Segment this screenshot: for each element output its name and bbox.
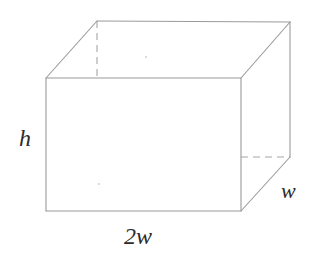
paper-speck [145,56,147,58]
depth-label: w [281,180,296,202]
prism-drawing [0,0,318,261]
paper-speck [98,183,100,185]
front-face [46,78,241,211]
prism-figure: h 2w w [0,0,318,261]
length-label: 2w [124,224,152,248]
height-label: h [19,126,31,150]
